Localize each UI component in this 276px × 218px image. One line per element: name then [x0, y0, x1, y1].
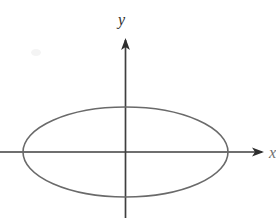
paper-smudge-artifact [31, 49, 41, 56]
x-axis-label: x [269, 145, 276, 161]
y-axis-label: y [118, 12, 125, 28]
coordinate-plot [0, 0, 276, 218]
figure-canvas: y x [0, 0, 276, 218]
